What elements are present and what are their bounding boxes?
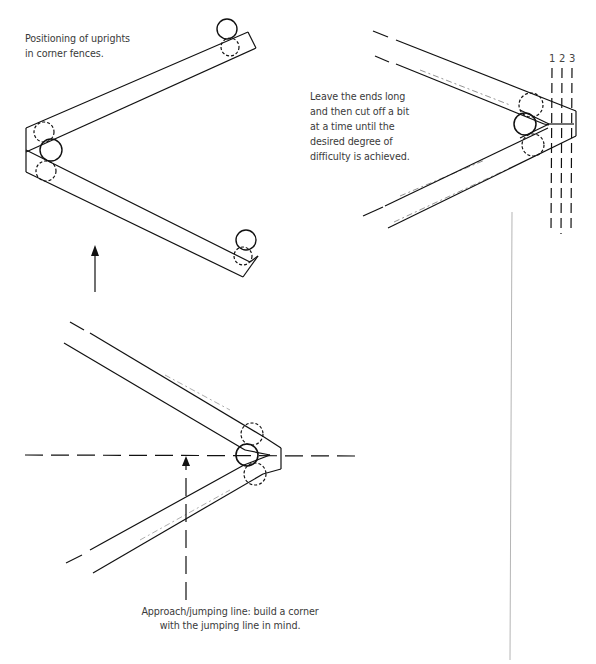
- caption-line: with the jumping line in mind.: [100, 619, 360, 633]
- arrow-up-icon: [91, 245, 99, 292]
- caption-line: desired degree of: [310, 134, 410, 149]
- diagram-canvas: [0, 0, 596, 664]
- approach-diagram: [25, 322, 358, 600]
- margin-rule: [510, 212, 512, 660]
- caption-positioning-uprights: Positioning of uprights in corner fences…: [25, 32, 130, 61]
- caption-line: at a time until the: [310, 119, 410, 134]
- caption-leave-ends-long: Leave the ends long and then cut off a b…: [310, 89, 410, 164]
- caption-line: Positioning of uprights: [25, 32, 130, 47]
- cut-line-label-1: 1: [549, 53, 555, 64]
- caption-line: difficulty is achieved.: [310, 149, 410, 164]
- caption-line: Approach/jumping line: build a corner: [100, 605, 360, 619]
- cut-line-label-3: 3: [569, 53, 575, 64]
- caption-line: in corner fences.: [25, 47, 130, 62]
- cut-line-label-2: 2: [559, 53, 565, 64]
- caption-approach-line: Approach/jumping line: build a corner wi…: [100, 605, 360, 633]
- caption-line: and then cut off a bit: [310, 104, 410, 119]
- caption-line: Leave the ends long: [310, 89, 410, 104]
